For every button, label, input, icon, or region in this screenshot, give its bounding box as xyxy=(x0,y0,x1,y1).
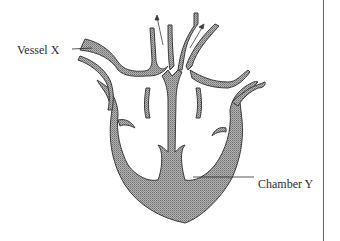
ventricular-wall xyxy=(97,70,258,223)
mitral-valve xyxy=(196,88,202,118)
vessel-x-label: Vessel X xyxy=(17,44,59,56)
pulmonary-vein-upper xyxy=(190,70,250,88)
tricuspid-valve xyxy=(145,88,151,118)
heart-diagram xyxy=(0,0,340,241)
aorta xyxy=(168,25,174,70)
right-border-line xyxy=(323,0,324,241)
right-flap xyxy=(212,127,226,136)
chamber-y-label: Chamber Y xyxy=(258,178,313,190)
left-flap xyxy=(118,119,135,128)
right-atrium-wall xyxy=(78,56,113,110)
flow-arrow-left xyxy=(157,17,163,45)
vessel-x xyxy=(80,28,168,76)
